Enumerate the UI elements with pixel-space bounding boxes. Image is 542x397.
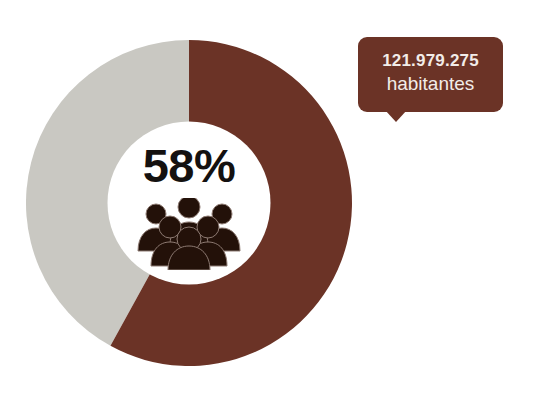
population-donut-infographic: 58% bbox=[0, 0, 542, 397]
callout-tail-icon bbox=[385, 110, 407, 122]
callout-unit: habitantes bbox=[387, 73, 475, 96]
callout-number: 121.979.275 bbox=[382, 51, 479, 71]
donut-hole bbox=[108, 122, 271, 285]
donut-chart-svg bbox=[26, 28, 352, 378]
donut-chart bbox=[26, 28, 352, 378]
callout-body: 121.979.275 habitantes bbox=[358, 37, 503, 112]
population-callout[interactable]: 121.979.275 habitantes bbox=[358, 37, 503, 112]
